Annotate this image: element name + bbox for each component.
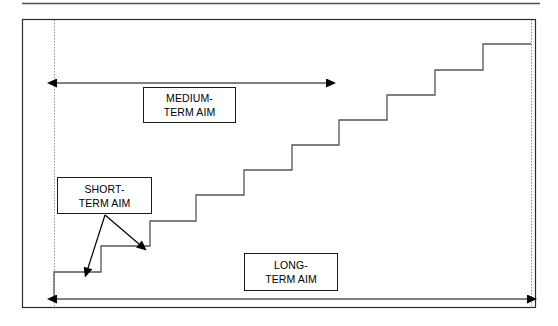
short-term-aim-line1: SHORT-: [84, 182, 124, 196]
long-term-aim-label: LONG- TERM AIM: [244, 253, 338, 291]
figure-canvas: MEDIUM- TERM AIM SHORT- TERM AIM LONG- T…: [0, 0, 558, 326]
long-term-aim-line2: TERM AIM: [265, 272, 317, 286]
medium-term-aim-line2: TERM AIM: [164, 105, 216, 119]
short-term-aim-label: SHORT- TERM AIM: [57, 177, 152, 214]
medium-term-aim-line1: MEDIUM-: [166, 91, 213, 105]
long-term-aim-line1: LONG-: [274, 258, 308, 272]
short-term-aim-line2: TERM AIM: [79, 196, 131, 210]
medium-term-aim-label: MEDIUM- TERM AIM: [143, 87, 236, 123]
